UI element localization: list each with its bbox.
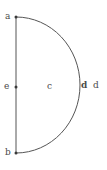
- semicircle-figure: a b e c d d: [0, 0, 107, 170]
- label-a: a: [5, 12, 10, 21]
- point-marker-e: [15, 86, 18, 89]
- label-e: e: [4, 82, 9, 91]
- point-marker-b: [15, 152, 18, 155]
- label-d-outer: d: [93, 81, 99, 90]
- label-d-arc: d: [81, 81, 87, 90]
- label-c: c: [47, 82, 52, 91]
- figure-canvas: [0, 0, 107, 170]
- label-b: b: [5, 148, 11, 157]
- point-marker-a: [15, 16, 18, 19]
